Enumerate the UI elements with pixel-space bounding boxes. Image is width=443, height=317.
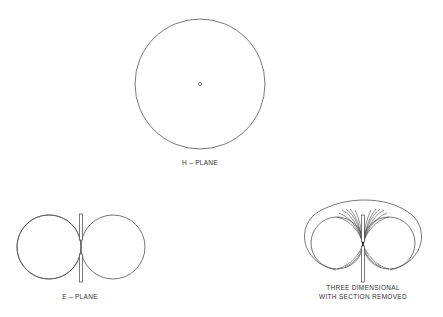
h-plane-label: H – PLANE (182, 159, 218, 166)
radiation-pattern-diagram: H – PLANE E – PLANE (0, 0, 443, 317)
h-plane-pattern: H – PLANE (135, 19, 265, 166)
3d-dipole-lower (362, 246, 365, 282)
right-section-lobe (363, 217, 415, 269)
left-section-lobe (311, 217, 363, 269)
h-plane-circle (135, 19, 265, 149)
three-dimensional-pattern: THREE DIMENSIONAL WITH SECTION REMOVED (304, 200, 421, 300)
dipole-upper-element (80, 214, 83, 240)
dipole-end-view (198, 82, 201, 85)
e-plane-left-lobe-circle (17, 215, 81, 279)
e-plane-pattern: E – PLANE (17, 214, 145, 300)
e-plane-right-lobe-circle (81, 215, 145, 279)
3d-label-line1: THREE DIMENSIONAL (326, 284, 400, 291)
3d-dipole-upper (362, 215, 365, 242)
3d-label-line2: WITH SECTION REMOVED (319, 293, 407, 300)
dipole-lower-element (80, 254, 83, 282)
e-plane-label: E – PLANE (62, 293, 98, 300)
